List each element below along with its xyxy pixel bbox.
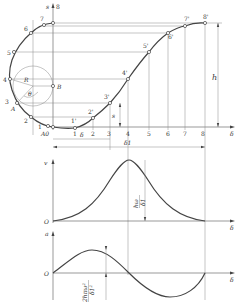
radius-R-label: R <box>23 76 29 83</box>
acceleration-curve <box>53 250 205 297</box>
curve-point-3-label: 3' <box>104 93 110 100</box>
velocity-curve <box>53 160 205 221</box>
delta-tick-6: 6 <box>166 130 170 137</box>
circle-points <box>8 21 54 128</box>
h-dimension-label: h <box>212 73 217 82</box>
curve-point-5-label: 5' <box>143 42 149 49</box>
a-delta-arrow-icon <box>230 272 235 275</box>
delta-tick-3: 3 <box>107 130 111 137</box>
s-dim-arrow-bottom-icon <box>119 123 121 127</box>
delta-tick-4: 4 <box>126 130 130 137</box>
delta-tick-5: 5 <box>147 130 151 137</box>
v-origin-label: O <box>44 218 49 225</box>
circle-point-7-label: 7 <box>40 15 44 22</box>
v-axis-label: v <box>44 159 48 166</box>
s-dim-arrow-top-icon <box>119 103 121 107</box>
curve-point-4-label: 4' <box>122 69 128 76</box>
a-peak-formula: 2hπω² δ1² <box>81 280 95 303</box>
a-origin-label: O <box>44 270 49 277</box>
a-peak-arrow-top-icon <box>105 246 107 250</box>
v-axis-arrow-icon <box>52 159 55 164</box>
v-peak-arrow-icon <box>144 217 146 221</box>
projection-lines <box>10 23 222 300</box>
a-axis-arrow-icon <box>52 231 55 236</box>
v-peak-formula: hω δ1 <box>132 195 146 208</box>
point-B-label: B <box>56 83 62 90</box>
a-delta-label: δ <box>230 276 234 283</box>
circle-point-2-label: 2 <box>24 117 28 124</box>
delta-dimension-label: δ <box>80 131 84 138</box>
h-dim-arrow-top-icon <box>217 23 219 27</box>
s-axis-arrow-icon <box>52 3 55 8</box>
delta-axis-label: δ <box>230 130 234 137</box>
delta1-arrow-right-icon <box>201 146 205 148</box>
angle-theta-label: θ <box>28 90 32 97</box>
s-dimension-label: s <box>112 112 115 119</box>
delta1-dimension-label: δ1 <box>124 139 131 146</box>
curve-point-7-label: 7' <box>184 15 190 22</box>
circle-point-1-label: 1 <box>38 123 42 130</box>
v-delta-label: δ <box>230 224 234 231</box>
v-delta-arrow-icon <box>230 220 235 223</box>
s-axis-label: s <box>46 3 49 10</box>
svg-text:δ1: δ1 <box>139 199 146 206</box>
delta-tick-8: 8 <box>201 130 205 137</box>
a-peak-arrow-bottom-icon <box>105 273 107 277</box>
curve-point-1-label: 1' <box>71 117 77 124</box>
svg-text:2hπω²: 2hπω² <box>81 282 88 303</box>
displacement-diagram: s 8 7 6 5 4 3 2 1 A0 R θ B A 1' 2' 3' 4'… <box>3 3 235 300</box>
svg-text:δ1²: δ1² <box>88 285 95 295</box>
origin-A0-label: A0 <box>40 130 49 137</box>
circle-point-6-label: 6 <box>24 25 28 32</box>
delta-tick-1: 1 <box>73 130 77 137</box>
h-dim-arrow-bottom-icon <box>217 123 219 127</box>
acceleration-diagram: a O δ 2hπω² δ1² <box>44 230 235 303</box>
delta-tick-2: 2 <box>91 130 95 137</box>
delta1-arrow-left-icon <box>53 146 57 148</box>
point-A-label: A <box>10 105 16 112</box>
curve-point-6-label: 6' <box>168 33 174 40</box>
curve-point-2-label: 2' <box>88 108 94 115</box>
velocity-diagram: v O δ hω δ1 <box>44 159 235 231</box>
circle-point-4-label: 4 <box>3 76 7 83</box>
circle-point-3-label: 3 <box>5 98 9 105</box>
curve-point-8-label: 8' <box>203 13 209 20</box>
displacement-curve <box>53 23 205 129</box>
svg-text:hω: hω <box>132 199 139 208</box>
circle-point-5-label: 5 <box>7 49 11 56</box>
cam-motion-diagram: s 8 7 6 5 4 3 2 1 A0 R θ B A 1' 2' 3' 4'… <box>0 0 238 308</box>
circle-point-8-label: 8 <box>56 3 60 10</box>
delta-axis-arrow-icon <box>230 126 235 129</box>
a-axis-label: a <box>45 230 49 237</box>
delta-tick-7: 7 <box>183 130 187 137</box>
